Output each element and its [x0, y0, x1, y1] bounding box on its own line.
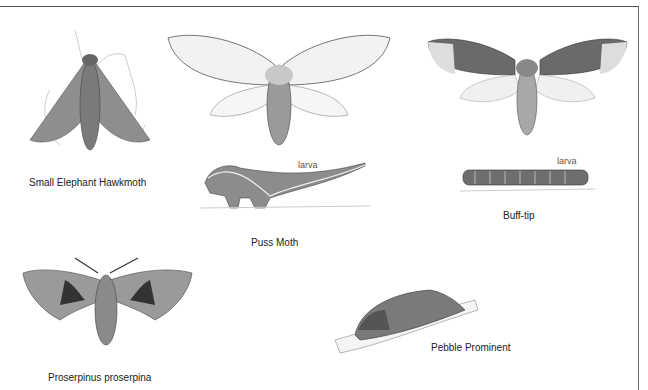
plate-frame-right	[638, 6, 639, 390]
buff-tip-illustration	[425, 30, 630, 140]
small-elephant-hawkmoth-illustration	[20, 25, 160, 155]
puss-moth-larva-label: larva	[298, 160, 318, 170]
caption-buff-tip: Buff-tip	[503, 210, 535, 221]
puss-moth-larva-illustration	[200, 158, 370, 213]
buff-tip-larva-label: larva	[557, 156, 577, 166]
caption-puss-moth: Puss Moth	[251, 237, 298, 248]
puss-moth-illustration	[165, 30, 393, 150]
caption-small-elephant-hawkmoth: Small Elephant Hawkmoth	[29, 177, 146, 188]
proserpinus-proserpina-illustration	[20, 255, 195, 350]
caption-pebble-prominent: Pebble Prominent	[431, 342, 511, 353]
caption-proserpinus-proserpina: Proserpinus proserpina	[48, 372, 151, 383]
buff-tip-larva-illustration	[460, 165, 595, 195]
plate-frame-top	[0, 6, 638, 7]
